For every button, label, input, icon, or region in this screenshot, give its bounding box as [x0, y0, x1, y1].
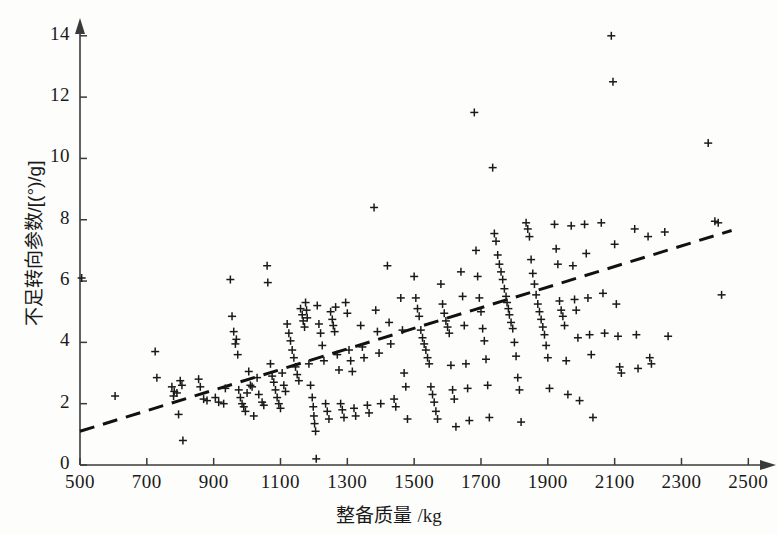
data-point [370, 203, 378, 211]
data-point [417, 326, 425, 334]
data-point [492, 237, 500, 245]
data-point [470, 108, 478, 116]
data-point [390, 395, 398, 403]
data-point [502, 292, 510, 300]
data-point [311, 420, 319, 428]
data-point [480, 337, 488, 345]
data-point [499, 276, 507, 284]
data-point [288, 346, 296, 354]
data-point [554, 260, 562, 268]
x-tick-label: 1700 [446, 471, 516, 493]
data-point [525, 233, 533, 241]
data-point [559, 312, 567, 320]
data-point [562, 357, 570, 365]
data-point [350, 404, 358, 412]
x-tick-label: 700 [112, 471, 182, 493]
data-point [226, 276, 234, 284]
data-point [584, 294, 592, 302]
data-point [337, 400, 345, 408]
data-point [509, 325, 517, 333]
axes [75, 18, 776, 470]
data-point [111, 392, 119, 400]
data-point [530, 280, 538, 288]
data-point [410, 272, 418, 280]
data-point [196, 383, 204, 391]
data-point [514, 374, 522, 382]
x-tick-label: 2500 [713, 471, 778, 493]
data-point [398, 326, 406, 334]
data-point [275, 400, 283, 408]
data-point [500, 285, 508, 293]
data-point [557, 306, 565, 314]
data-point [440, 309, 448, 317]
data-point [586, 331, 594, 339]
data-point [313, 302, 321, 310]
data-point [582, 249, 590, 257]
data-point [614, 332, 622, 340]
data-point [464, 384, 472, 392]
data-point [587, 351, 595, 359]
data-point [450, 395, 458, 403]
data-point [529, 269, 537, 277]
data-point [459, 292, 467, 300]
data-point [449, 386, 457, 394]
data-point [246, 381, 254, 389]
data-point [280, 381, 288, 389]
data-point [505, 311, 513, 319]
data-point [255, 390, 263, 398]
x-tick-label: 1500 [379, 471, 449, 493]
data-point [545, 384, 553, 392]
x-tick-label: 2300 [646, 471, 716, 493]
data-point [301, 323, 309, 331]
data-point [276, 404, 284, 412]
data-point [245, 367, 253, 375]
data-point [153, 374, 161, 382]
data-point [387, 340, 395, 348]
data-point [664, 332, 672, 340]
data-point [357, 322, 365, 330]
data-point [447, 361, 455, 369]
data-point [332, 303, 340, 311]
data-point [482, 355, 490, 363]
data-point [297, 305, 305, 313]
data-point [250, 412, 258, 420]
data-point [282, 387, 290, 395]
data-point [383, 262, 391, 270]
data-point [338, 406, 346, 414]
x-tick-label: 1300 [312, 471, 382, 493]
data-point [644, 233, 652, 241]
data-point [556, 297, 564, 305]
data-point [532, 291, 540, 299]
x-tick-label: 2100 [580, 471, 650, 493]
data-point [489, 164, 497, 172]
data-point [234, 351, 242, 359]
data-point [434, 415, 442, 423]
data-point [412, 294, 420, 302]
data-point [287, 337, 295, 345]
data-point [175, 410, 183, 418]
data-point [278, 369, 286, 377]
data-point [617, 369, 625, 377]
data-point [322, 400, 330, 408]
data-point [564, 390, 572, 398]
data-point [462, 360, 470, 368]
chart-canvas [0, 0, 778, 535]
data-point [232, 335, 240, 343]
data-point [360, 354, 368, 362]
data-point [348, 367, 356, 375]
data-point [414, 305, 422, 313]
data-point [403, 415, 411, 423]
data-point [552, 245, 560, 253]
data-point [631, 225, 639, 233]
data-point [527, 256, 535, 264]
data-point [373, 328, 381, 336]
data-point [432, 407, 440, 415]
data-point [574, 334, 582, 342]
data-point [352, 412, 360, 420]
data-point [567, 222, 575, 230]
data-point [452, 423, 460, 431]
data-point [517, 418, 525, 426]
data-point [312, 455, 320, 463]
data-point [318, 341, 326, 349]
data-point [323, 407, 331, 415]
